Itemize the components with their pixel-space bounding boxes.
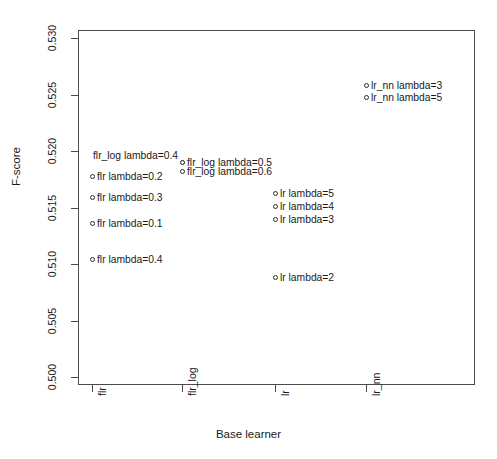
data-point-label: flr lambda=0.3	[97, 192, 163, 203]
data-point-label: flr lambda=0.2	[97, 171, 163, 182]
x-axis-tick	[275, 385, 276, 392]
y-axis-title: F-score	[10, 147, 22, 186]
data-point-label: flr lambda=0.4	[97, 254, 163, 265]
x-axis-tick-label: lr_nn	[370, 373, 382, 396]
data-point-label: flr_log lambda=0.4	[93, 150, 178, 161]
data-point-marker	[364, 95, 369, 100]
data-point-marker	[273, 275, 278, 280]
data-point-label: lr lambda=3	[280, 214, 334, 225]
y-axis-tick	[71, 38, 78, 39]
y-axis-tick-label: 0.500	[46, 360, 58, 394]
data-point-marker	[364, 83, 369, 88]
data-point-marker	[90, 195, 95, 200]
data-point-marker	[90, 221, 95, 226]
y-axis-tick	[71, 377, 78, 378]
data-point-label: lr_nn lambda=3	[371, 80, 442, 91]
x-axis-tick	[182, 385, 183, 392]
x-axis-tick	[92, 385, 93, 392]
data-point-label: lr lambda=5	[280, 188, 334, 199]
y-axis-tick-label: 0.515	[46, 191, 58, 225]
x-axis-title: Base learner	[0, 428, 497, 440]
data-point-label: flr_log lambda=0.6	[187, 166, 272, 177]
data-point-label: lr_nn lambda=5	[371, 92, 442, 103]
data-point-marker	[180, 160, 185, 165]
y-axis-tick-label: 0.525	[46, 78, 58, 112]
y-axis-tick	[71, 151, 78, 152]
data-point-marker	[90, 257, 95, 262]
x-axis-tick	[366, 385, 367, 392]
scatter-plot-figure: F-score Base learner 0.5300.5250.5200.51…	[0, 0, 497, 459]
y-axis-tick	[71, 95, 78, 96]
y-axis-tick	[71, 264, 78, 265]
x-axis-tick-label: flr_log	[186, 367, 198, 396]
data-point-marker	[273, 204, 278, 209]
y-axis-tick	[71, 208, 78, 209]
data-point-marker	[180, 169, 185, 174]
y-axis-tick-label: 0.510	[46, 247, 58, 281]
y-axis-tick-label: 0.505	[46, 304, 58, 338]
y-axis-tick-label: 0.530	[46, 21, 58, 55]
y-axis-tick-label: 0.520	[46, 134, 58, 168]
y-axis-tick	[71, 321, 78, 322]
data-point-label: flr lambda=0.1	[97, 218, 163, 229]
data-point-label: lr lambda=4	[280, 201, 334, 212]
data-point-label: lr lambda=2	[280, 272, 334, 283]
x-axis-tick-label: lr	[279, 390, 291, 396]
x-axis-tick-label: flr	[96, 387, 108, 396]
